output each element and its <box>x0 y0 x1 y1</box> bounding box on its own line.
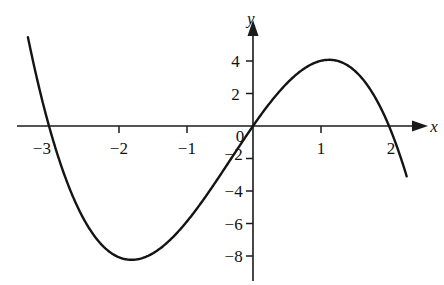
origin-label: 0 <box>236 128 245 145</box>
x-tick-label-1: 1 <box>317 140 326 157</box>
y-tick-label-2: 2 <box>231 85 240 102</box>
cubic-curve <box>28 37 407 260</box>
x-tick-label-2: 2 <box>387 140 396 157</box>
y-tick-label--4: −4 <box>225 183 244 200</box>
x-axis-arrowhead <box>412 121 428 132</box>
function-plot-figure: −3 −2 −1 1 2 0 4 2 −2 −4 −6 −8 x y <box>0 0 444 285</box>
x-tick-label--3: −3 <box>33 140 52 157</box>
y-tick-label--2: −2 <box>225 146 244 163</box>
x-axis-label: x <box>430 118 438 135</box>
plot-canvas <box>0 0 444 285</box>
y-axis-label: y <box>247 10 255 27</box>
y-tick-label--8: −8 <box>225 248 244 265</box>
y-tick-label-4: 4 <box>231 53 240 70</box>
x-tick-label--1: −1 <box>178 140 197 157</box>
x-tick-label--2: −2 <box>110 140 129 157</box>
y-tick-label--6: −6 <box>225 215 244 232</box>
